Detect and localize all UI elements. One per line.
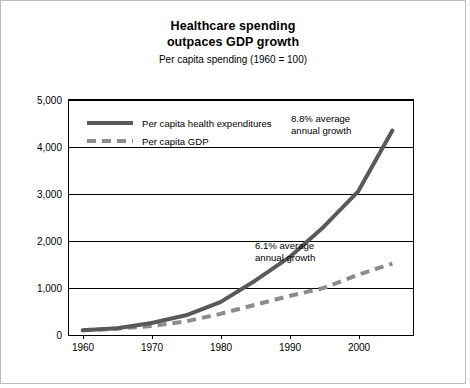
chart-subtitle: Per capita spending (1960 = 100) [0,53,466,67]
legend-item-health-expenditures: Per capita health expenditures [87,114,272,132]
chart-figure: Healthcare spending outpaces GDP growth … [0,0,470,388]
chart-title-line-1: Healthcare spending [0,18,466,34]
xtick-mark-1980 [221,335,222,339]
ytick-label-4000: 4,000 [37,142,62,153]
annotation-health-growth-line-2: annual growth [291,125,351,137]
xtick-label-1970: 1970 [141,342,163,353]
ytick-label-3000: 3,000 [37,189,62,200]
legend-item-per-capita-gdp: Per capita GDP [87,132,272,150]
xtick-mark-2000 [359,335,360,339]
plot-area: 5,000 4,000 3,000 2,000 1,000 0 1960 197… [68,99,414,336]
chart-title-line-2: outpaces GDP growth [0,34,466,50]
annotation-gdp-growth-line-2: annual growth [255,252,315,264]
xtick-label-2000: 2000 [348,342,370,353]
annotation-gdp-growth: 6.1% average annual growth [255,240,315,264]
annotation-health-growth-line-1: 8.8% average [291,113,351,125]
legend-label-health-expenditures: Per capita health expenditures [142,118,272,129]
xtick-label-1980: 1980 [210,342,232,353]
annotation-health-growth: 8.8% average annual growth [291,113,351,137]
ytick-label-1000: 1,000 [37,283,62,294]
xtick-label-1960: 1960 [72,342,94,353]
ytick-label-0: 0 [56,330,62,341]
chart-legend: Per capita health expenditures Per capit… [87,114,272,150]
xtick-mark-1970 [152,335,153,339]
legend-swatch-dashed-icon [87,136,133,146]
annotation-gdp-growth-line-1: 6.1% average [255,240,315,252]
xtick-label-1990: 1990 [279,342,301,353]
chart-title-block: Healthcare spending outpaces GDP growth … [0,18,466,67]
series-line-per-capita-gdp [83,264,393,331]
ytick-label-2000: 2,000 [37,236,62,247]
series-line-health-expenditures [83,131,393,331]
xtick-mark-1960 [83,335,84,339]
xtick-mark-1990 [290,335,291,339]
legend-label-per-capita-gdp: Per capita GDP [142,136,209,147]
legend-swatch-solid-icon [87,118,133,128]
plot-inner: 5,000 4,000 3,000 2,000 1,000 0 1960 197… [69,100,413,335]
ytick-label-5000: 5,000 [37,95,62,106]
